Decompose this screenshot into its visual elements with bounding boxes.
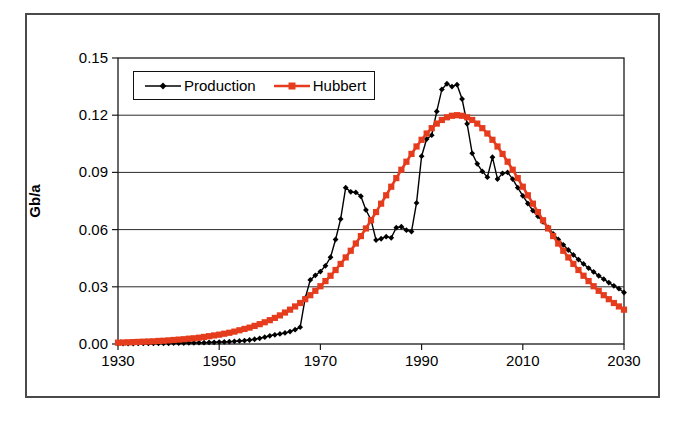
production-marker <box>292 327 298 333</box>
hubbert-marker <box>510 167 516 173</box>
production-marker <box>247 337 253 343</box>
hubbert-marker <box>338 261 344 267</box>
hubbert-marker <box>555 240 561 246</box>
production-marker <box>363 207 369 213</box>
x-tick-label: 1950 <box>203 352 236 369</box>
x-tick-label: 2030 <box>607 352 640 369</box>
hubbert-marker <box>621 307 627 313</box>
production-marker <box>338 216 344 222</box>
production-marker <box>383 234 389 240</box>
chart-canvas: 0.000.030.060.090.120.151930195019701990… <box>0 0 682 421</box>
hubbert-marker <box>343 254 349 260</box>
production-line-diamond-icon <box>143 80 183 92</box>
hubbert-marker <box>368 217 374 223</box>
y-tick-label: 0.12 <box>79 106 108 123</box>
hubbert-marker <box>398 167 404 173</box>
hubbert-marker <box>322 278 328 284</box>
hubbert-marker <box>403 159 409 165</box>
x-tick-label: 1970 <box>304 352 337 369</box>
production-marker <box>414 200 420 206</box>
hubbert-marker <box>505 159 511 165</box>
y-tick-label: 0.06 <box>79 221 108 238</box>
y-axis-title: Gb/a <box>26 171 44 231</box>
hubbert-marker <box>494 143 500 149</box>
production-marker <box>378 236 384 242</box>
x-tick-label: 2010 <box>506 352 539 369</box>
production-marker <box>282 330 288 336</box>
plot-border <box>118 58 624 344</box>
y-tick-label: 0.03 <box>79 278 108 295</box>
legend-label-production: Production <box>184 77 256 94</box>
x-tick-label: 1990 <box>405 352 438 369</box>
production-marker <box>454 82 460 88</box>
hubbert-marker <box>419 137 425 143</box>
hubbert-marker <box>515 175 521 181</box>
production-marker <box>449 84 455 90</box>
x-tick-label: 1930 <box>101 352 134 369</box>
legend: Production Hubbert <box>133 71 375 100</box>
hubbert-marker <box>520 184 526 190</box>
hubbert-marker <box>489 137 495 143</box>
hubbert-marker <box>373 209 379 215</box>
legend-item-hubbert: Hubbert <box>272 77 366 94</box>
hubbert-marker <box>408 151 414 157</box>
production-marker <box>257 335 263 341</box>
hubbert-marker <box>353 240 359 246</box>
hubbert-marker <box>413 143 419 149</box>
hubbert-line-square-icon <box>272 80 312 92</box>
chart-figure: 0.000.030.060.090.120.151930195019701990… <box>0 0 682 421</box>
hubbert-marker <box>570 261 576 267</box>
hubbert-marker <box>358 233 364 239</box>
production-marker <box>242 338 248 344</box>
y-tick-label: 0.00 <box>79 335 108 352</box>
production-marker <box>267 333 273 339</box>
production-marker <box>277 331 283 337</box>
hubbert-marker <box>565 254 571 260</box>
production-marker <box>333 237 339 243</box>
hubbert-marker <box>327 273 333 279</box>
production-marker <box>272 332 278 338</box>
hubbert-marker <box>560 248 566 254</box>
hubbert-marker <box>540 217 546 223</box>
hubbert-marker <box>550 233 556 239</box>
hubbert-legend-marker <box>288 82 295 89</box>
hubbert-marker <box>545 225 551 231</box>
hubbert-marker <box>363 225 369 231</box>
hubbert-marker <box>484 130 490 136</box>
hubbert-marker <box>530 201 536 207</box>
production-marker <box>419 153 425 159</box>
hubbert-marker <box>388 184 394 190</box>
hubbert-marker <box>580 273 586 279</box>
production-marker <box>297 324 303 330</box>
hubbert-marker <box>479 125 485 131</box>
production-marker <box>252 336 258 342</box>
production-marker <box>373 237 379 243</box>
production-marker <box>388 235 394 241</box>
production-legend-marker <box>160 82 167 89</box>
hubbert-marker <box>383 192 389 198</box>
hubbert-marker <box>575 267 581 273</box>
hubbert-marker <box>348 248 354 254</box>
y-tick-label: 0.15 <box>79 49 108 66</box>
production-marker <box>287 329 293 335</box>
hubbert-marker <box>525 192 531 198</box>
production-marker <box>469 150 475 156</box>
production-marker <box>490 154 496 160</box>
production-marker <box>459 96 465 102</box>
production-marker <box>237 338 243 344</box>
hubbert-marker <box>535 209 541 215</box>
hubbert-marker <box>393 175 399 181</box>
production-marker <box>434 108 440 114</box>
legend-label-hubbert: Hubbert <box>313 77 366 94</box>
y-tick-label: 0.09 <box>79 163 108 180</box>
production-marker <box>328 254 334 260</box>
hubbert-marker <box>424 130 430 136</box>
hubbert-marker <box>332 267 338 273</box>
hubbert-marker <box>378 201 384 207</box>
hubbert-marker <box>499 151 505 157</box>
production-line <box>118 84 624 344</box>
production-marker <box>262 334 268 340</box>
legend-item-production: Production <box>143 77 256 94</box>
